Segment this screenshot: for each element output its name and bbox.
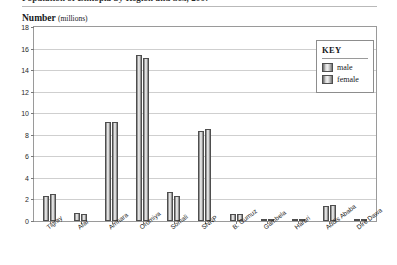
bar-female xyxy=(112,122,118,221)
bar-male xyxy=(74,213,80,222)
gridline xyxy=(34,27,376,28)
bar-group xyxy=(189,129,220,221)
y-axis-tick xyxy=(31,221,34,222)
legend-swatch-icon xyxy=(322,63,333,72)
axis-caption-unit: (millions) xyxy=(58,14,88,23)
legend-entries: malefemale xyxy=(322,63,368,84)
y-axis-tick xyxy=(31,49,34,50)
legend-divider xyxy=(322,58,368,59)
axis-caption-text: Number xyxy=(22,13,56,23)
bar-male xyxy=(136,55,142,221)
y-axis-label: 18 xyxy=(21,24,29,31)
gridline xyxy=(34,113,376,114)
y-axis-tick xyxy=(31,113,34,114)
y-axis-label: 16 xyxy=(21,45,29,52)
y-axis-label: 2 xyxy=(25,196,29,203)
y-axis-label: 0 xyxy=(25,218,29,225)
bar-male xyxy=(230,214,236,221)
bar-female xyxy=(143,58,149,221)
legend-label: female xyxy=(337,75,359,84)
y-axis-label: 4 xyxy=(25,174,29,181)
bar-group xyxy=(96,122,127,221)
bar-male xyxy=(198,131,204,221)
y-axis-tick xyxy=(31,70,34,71)
bar-male xyxy=(105,122,111,221)
bar-male xyxy=(167,192,173,221)
bar-female xyxy=(205,129,211,221)
y-axis-tick xyxy=(31,156,34,157)
page-title: Population of Ethiopia by Region and Sex… xyxy=(22,0,382,3)
bar-group xyxy=(127,55,158,221)
legend-swatch-icon xyxy=(322,75,333,84)
y-axis-tick xyxy=(31,27,34,28)
bar-male xyxy=(43,196,49,221)
y-axis-label: 8 xyxy=(25,131,29,138)
y-axis-label: 14 xyxy=(21,67,29,74)
y-axis-tick xyxy=(31,135,34,136)
legend-item: male xyxy=(322,63,368,72)
legend-label: male xyxy=(337,63,353,72)
legend-title: KEY xyxy=(322,45,368,58)
axis-caption: Number (millions) xyxy=(22,13,88,23)
chart-page: Population of Ethiopia by Region and Sex… xyxy=(0,0,397,265)
y-axis-label: 10 xyxy=(21,110,29,117)
y-axis-tick xyxy=(31,178,34,179)
y-axis-label: 6 xyxy=(25,153,29,160)
y-axis-label: 12 xyxy=(21,88,29,95)
legend-item: female xyxy=(322,75,368,84)
chart-legend: KEY malefemale xyxy=(316,40,374,93)
bar-male xyxy=(323,206,329,221)
y-axis-tick xyxy=(31,92,34,93)
title-divider xyxy=(22,6,377,7)
